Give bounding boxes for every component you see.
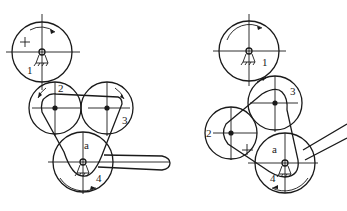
right-belt-drive-diagram: 1 3 2	[205, 14, 347, 193]
pulley-label: 4	[96, 172, 102, 184]
pulley-label: 3	[122, 114, 128, 126]
left-pulley-3: 3	[81, 82, 133, 136]
small-cross-marker-icon	[20, 37, 30, 47]
pulley-label: 2	[206, 127, 212, 139]
center-distance-label: a	[272, 143, 277, 155]
belt-drive-diagrams: 1 2 3	[0, 0, 347, 211]
pulley-label: 1	[27, 64, 33, 76]
tension-arm	[98, 155, 170, 170]
left-pulley-4: 4	[48, 132, 170, 194]
left-belt-drive-diagram: 1 2 3	[6, 14, 170, 194]
center-distance-label: a	[84, 139, 89, 151]
right-pulley-4: 4	[248, 133, 318, 193]
pulley-label: 1	[262, 56, 268, 68]
left-pulley-2: 2	[29, 82, 81, 136]
pulley-label: 2	[58, 82, 64, 94]
left-pulley-1: 1	[6, 14, 80, 90]
right-pulley-3: 3	[248, 76, 302, 132]
right-pulley-2: 2	[205, 107, 257, 160]
pulley-label: 3	[290, 85, 296, 97]
tension-arm	[303, 124, 347, 160]
right-pulley-1: 1	[213, 14, 286, 86]
